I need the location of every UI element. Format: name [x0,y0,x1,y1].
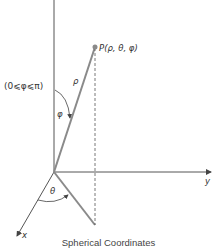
phi-range-label: (0⩽φ⩽π) [4,81,43,91]
x-axis [17,172,54,236]
y-axis-label: y [204,176,211,186]
theta-arc [38,195,68,202]
caption: Spherical Coordinates [0,237,217,248]
point-p [93,45,98,50]
rho-label: ρ [73,76,79,86]
theta-label: θ [50,186,56,196]
projection-line [54,172,95,225]
phi-label: φ [57,109,63,119]
point-label: P(ρ, θ, φ) [99,43,138,53]
spherical-diagram: P(ρ, θ, φ) ρ φ θ (0⩽φ⩽π) x y [0,0,217,251]
